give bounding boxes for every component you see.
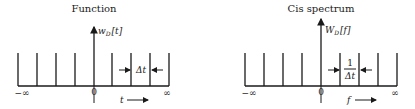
spectrum-title: Cis spectrum — [288, 3, 355, 14]
origin-label: 0 — [91, 87, 97, 97]
neg-infinity-label: −∞ — [241, 88, 256, 98]
spacing-label-numerator: 1 — [347, 58, 353, 68]
amplitude-label: wD[t] — [98, 26, 123, 37]
function-title: Function — [71, 3, 117, 14]
function-panel: Function wD[t] Δt −∞ 0 ∞ t — [14, 3, 170, 105]
cis-spectrum-panel: Cis spectrum WD[f] 1 Δt −∞ 0 ∞ f — [241, 3, 398, 105]
pos-infinity-label: ∞ — [391, 88, 399, 98]
origin-label: 0 — [318, 87, 324, 97]
pos-infinity-label: ∞ — [163, 88, 171, 98]
neg-infinity-label: −∞ — [14, 88, 29, 98]
spacing-label: Δt — [135, 65, 146, 75]
amplitude-label: WD[f] — [325, 25, 351, 36]
axis-variable-label: f — [346, 95, 352, 105]
axis-variable-label: t — [120, 95, 124, 105]
dirac-comb-diagram: Function wD[t] Δt −∞ 0 ∞ t Cis — [0, 0, 415, 109]
spacing-label-denominator: Δt — [344, 71, 355, 81]
